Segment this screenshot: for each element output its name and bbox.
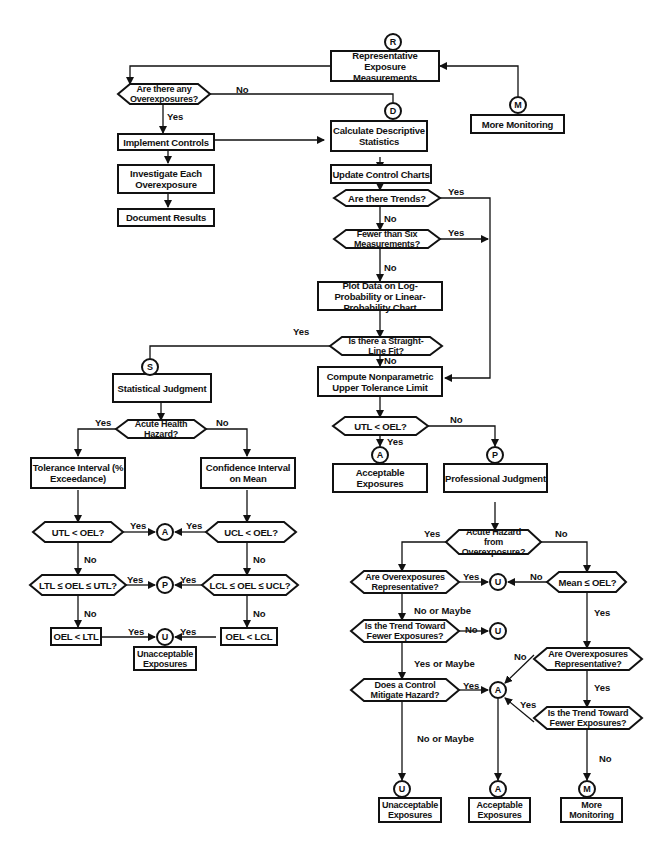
- edge-label-no: No: [530, 571, 543, 582]
- connector-p-main: P: [486, 446, 504, 464]
- plot-data-box: Plot Data on Log-Probability or Linear-P…: [317, 281, 443, 311]
- edge-label-no: No: [253, 608, 266, 619]
- connector-p-left: P: [156, 576, 174, 594]
- connector-a-bottom: A: [489, 780, 507, 798]
- unacceptable-exposures-bottom-box: Unacceptable Exposures: [378, 797, 442, 823]
- edge-label-yes: Yes: [293, 326, 309, 337]
- edge-label-yes: Yes: [463, 680, 479, 691]
- decision-acute-health-hazard: Acute Health Hazard?: [128, 420, 194, 438]
- edge-label-yes: Yes: [520, 699, 536, 710]
- edge-label-yes: Yes: [128, 626, 144, 637]
- edge-label-yes: Yes: [180, 626, 196, 637]
- connector-a-mid: A: [489, 681, 507, 699]
- edge-label-yes: Yes: [594, 607, 610, 618]
- decision-ucl-oel: UCL < OEL?: [218, 522, 284, 542]
- connector-d: D: [384, 102, 402, 120]
- edge-label-no: No: [253, 554, 266, 565]
- decision-trend-fewer-right: Is the Trend Toward Fewer Exposures?: [545, 707, 631, 729]
- connector-a-left: A: [156, 523, 174, 541]
- edge-label-no: No: [236, 84, 249, 95]
- decision-any-overexposures: Are there any Overexposures?: [125, 84, 203, 104]
- edge-label-no: No: [84, 554, 97, 565]
- edge-label-yes: Yes: [167, 111, 183, 122]
- edge-label-no: No: [450, 414, 463, 425]
- edge-label-yes: Yes: [463, 571, 479, 582]
- edge-label-no: No: [384, 213, 397, 224]
- confidence-interval-box: Confidence Interval on Mean: [200, 457, 296, 489]
- edge-label-no-or-maybe: No or Maybe: [417, 733, 474, 744]
- oel-less-ltl-box: OEL < LTL: [50, 627, 102, 646]
- edge-label-yes: Yes: [186, 520, 202, 531]
- decision-acute-hazard-overexposure: Acute Hazard from Overexposure?: [456, 530, 531, 554]
- connector-m-top: M: [509, 96, 527, 114]
- implement-controls-box: Implement Controls: [117, 133, 215, 151]
- decision-overexposures-representative-left: Are Overexposures Representative?: [362, 571, 448, 593]
- connector-m-bottom: M: [578, 780, 596, 798]
- decision-mean-oel: Mean ≤ OEL?: [555, 572, 620, 592]
- decision-ltl-oel-utl: LTL ≤ OEL ≤ UTL?: [36, 575, 120, 595]
- edge-label-no: No: [216, 417, 229, 428]
- unacceptable-exposures-left-box: Unacceptable Exposures: [133, 646, 197, 671]
- decision-lcl-oel-ucl: LCL ≤ OEL ≤ UCL?: [207, 575, 293, 595]
- exposure-assessment-flowchart: R M D S A P U A P U U A U A M Representa…: [0, 0, 672, 845]
- connector-a-main: A: [371, 446, 389, 464]
- edge-label-no-or-maybe: No or Maybe: [414, 605, 471, 616]
- decision-straight-line-fit: Is there a Straight-Line Fit?: [342, 337, 430, 355]
- decision-fewer-than-six: Fewer than Six Measurements?: [346, 230, 428, 248]
- edge-label-no: No: [384, 355, 397, 366]
- edge-label-yes-or-maybe: Yes or Maybe: [414, 658, 475, 669]
- decision-trend-fewer-left: Is the Trend Toward Fewer Exposures?: [362, 620, 448, 642]
- more-monitoring-top-box: More Monitoring: [470, 114, 565, 134]
- edge-label-no: No: [465, 624, 478, 635]
- edge-label-yes: Yes: [387, 436, 403, 447]
- oel-less-lcl-box: OEL < LCL: [220, 627, 278, 646]
- edge-label-yes: Yes: [424, 528, 440, 539]
- edge-label-yes: Yes: [95, 417, 111, 428]
- connector-u-bottom: U: [393, 780, 411, 798]
- edge-label-yes: Yes: [180, 574, 196, 585]
- acceptable-exposures-bottom-box: Acceptable Exposures: [468, 797, 531, 823]
- decision-trends: Are there Trends?: [340, 190, 434, 206]
- connector-u-left: U: [156, 628, 174, 646]
- professional-judgment-box: Professional Judgment: [443, 463, 548, 493]
- edge-label-yes: Yes: [130, 520, 146, 531]
- acceptable-exposures-main-box: Acceptable Exposures: [332, 463, 428, 493]
- update-control-charts-box: Update Control Charts: [330, 164, 432, 184]
- edge-label-no: No: [384, 262, 397, 273]
- edge-label-yes: Yes: [594, 682, 610, 693]
- edge-label-yes: Yes: [127, 574, 143, 585]
- decision-control-mitigate: Does a Control Mitigate Hazard?: [362, 679, 448, 701]
- decision-utl-oel-left: UTL < OEL?: [45, 522, 111, 542]
- edge-label-yes: Yes: [448, 186, 464, 197]
- connector-s: S: [141, 358, 159, 376]
- representative-exposure-box: Representative Exposure Measurements: [330, 50, 440, 82]
- statistical-judgment-box: Statistical Judgment: [112, 373, 212, 403]
- edge-label-no: No: [514, 651, 527, 662]
- more-monitoring-bottom-box: More Monitoring: [560, 797, 623, 823]
- calculate-statistics-box: Calculate Descriptive Statistics: [330, 120, 428, 152]
- connector-r: R: [384, 33, 402, 51]
- compute-nonparametric-box: Compute Nonparametric Upper Tolerance Li…: [317, 366, 443, 397]
- decision-overexposures-representative-right: Are Overexposures Representative?: [545, 648, 631, 670]
- investigate-overexposure-box: Investigate Each Overexposure: [117, 164, 215, 194]
- edge-label-yes: Yes: [448, 227, 464, 238]
- tolerance-interval-box: Tolerance Interval (% Exceedance): [30, 457, 126, 489]
- connector-u-trend: U: [489, 622, 507, 640]
- edge-label-no: No: [84, 608, 97, 619]
- document-results-box: Document Results: [117, 208, 215, 227]
- edge-label-no: No: [599, 753, 612, 764]
- connector-u-mid: U: [489, 573, 507, 591]
- edge-label-no: No: [555, 528, 568, 539]
- decision-utl-oel-main: UTL < OEL?: [345, 417, 416, 435]
